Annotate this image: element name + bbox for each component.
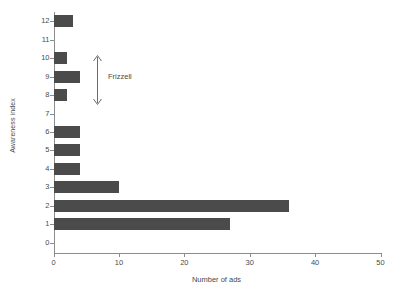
- y-axis-tick-label: 6: [45, 128, 49, 136]
- y-axis-tick-mark: [50, 95, 54, 96]
- y-axis-tick-mark: [50, 224, 54, 225]
- bar: [54, 181, 119, 193]
- y-axis-tick-mark: [50, 206, 54, 207]
- y-axis-tick-label: 1: [45, 221, 49, 229]
- y-axis-tick-mark: [50, 169, 54, 170]
- y-axis-tick-mark: [50, 114, 54, 115]
- y-axis-tick-label: 12: [41, 17, 49, 25]
- bar: [54, 200, 289, 212]
- y-axis-tick-label: 5: [45, 147, 49, 155]
- y-axis-tick-mark: [50, 243, 54, 244]
- y-axis-tick-label: 0: [45, 239, 49, 247]
- plot-area: 0123456789101112: [54, 12, 381, 252]
- y-axis-tick-label: 10: [41, 54, 49, 62]
- bar: [54, 15, 74, 27]
- bar: [54, 126, 80, 138]
- y-axis-tick-mark: [50, 58, 54, 59]
- y-axis-tick-mark: [50, 40, 54, 41]
- y-axis-tick-label: 4: [45, 165, 49, 173]
- x-axis-title: Number of ads: [53, 275, 380, 284]
- y-axis-title: Awareness index: [4, 0, 20, 250]
- bar: [54, 52, 67, 64]
- x-axis-tick-mark: [315, 253, 316, 257]
- x-axis-tick-label: 0: [51, 259, 55, 267]
- double-headed-arrow-icon: [88, 52, 108, 108]
- y-axis-tick-mark: [50, 132, 54, 133]
- x-axis-tick-label: 50: [376, 259, 384, 267]
- y-axis-tick-mark: [50, 21, 54, 22]
- bar-chart: Awareness index 0123456789101112 0102030…: [0, 0, 396, 296]
- y-axis-tick-label: 7: [45, 110, 49, 118]
- x-axis-ticks: 01020304050: [54, 253, 381, 273]
- bar: [54, 89, 67, 101]
- x-axis-tick-mark: [184, 253, 185, 257]
- x-axis-tick-label: 10: [115, 259, 123, 267]
- bar: [54, 218, 231, 230]
- x-axis-tick-label: 30: [246, 259, 254, 267]
- bar: [54, 71, 80, 83]
- x-axis-tick-mark: [119, 253, 120, 257]
- bar: [54, 144, 80, 156]
- y-axis-title-text: Awareness index: [9, 98, 16, 153]
- x-axis-tick-mark: [54, 253, 55, 257]
- x-axis-tick-mark: [381, 253, 382, 257]
- x-axis-tick-label: 20: [180, 259, 188, 267]
- y-axis-tick-mark: [50, 77, 54, 78]
- y-axis-tick-label: 3: [45, 184, 49, 192]
- bar: [54, 163, 80, 175]
- frizzell-annotation: Frizzell: [88, 52, 158, 108]
- y-axis-tick-label: 11: [42, 36, 50, 44]
- x-axis-tick-mark: [250, 253, 251, 257]
- y-axis-tick-mark: [50, 187, 54, 188]
- y-axis-tick-label: 2: [45, 202, 49, 210]
- y-axis-tick-mark: [50, 150, 54, 151]
- x-axis-tick-label: 40: [311, 259, 319, 267]
- y-axis-tick-label: 8: [45, 91, 49, 99]
- frizzell-annotation-label: Frizzell: [108, 72, 132, 81]
- y-axis-tick-label: 9: [45, 73, 49, 81]
